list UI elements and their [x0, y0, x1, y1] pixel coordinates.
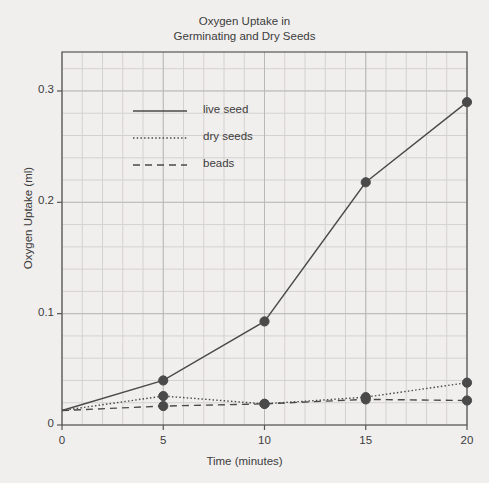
data-point-dry-seeds-20	[462, 378, 471, 387]
data-point-dry-seeds-5	[159, 391, 168, 400]
x-tick-label: 10	[245, 434, 285, 446]
data-point-live-seed-20	[462, 98, 471, 107]
legend-swatches	[133, 111, 187, 165]
plot-area	[0, 0, 489, 483]
x-tick-label: 5	[143, 434, 183, 446]
y-tick-label: 0.2	[10, 194, 54, 206]
data-point-live-seed-5	[159, 376, 168, 385]
x-tick-label: 0	[42, 434, 82, 446]
data-point-beads-10	[260, 399, 269, 408]
data-point-beads-15	[361, 395, 370, 404]
y-tick-label: 0.3	[10, 83, 54, 95]
data-point-live-seed-15	[361, 178, 370, 187]
legend-label-live-seed: live seed	[203, 103, 248, 115]
legend-label-beads: beads	[203, 157, 234, 169]
y-tick-label: 0.1	[10, 306, 54, 318]
x-tick-label: 15	[346, 434, 386, 446]
data-point-beads-5	[159, 401, 168, 410]
series-markers	[159, 98, 472, 411]
y-tick-label: 0	[10, 417, 54, 429]
data-point-beads-20	[462, 396, 471, 405]
axis-ticks	[57, 91, 467, 430]
legend-label-dry-seeds: dry seeds	[203, 130, 253, 142]
x-tick-label: 20	[447, 434, 487, 446]
data-point-live-seed-10	[260, 317, 269, 326]
chart-figure: Oxygen Uptake inGerminating and Dry Seed…	[0, 0, 489, 483]
